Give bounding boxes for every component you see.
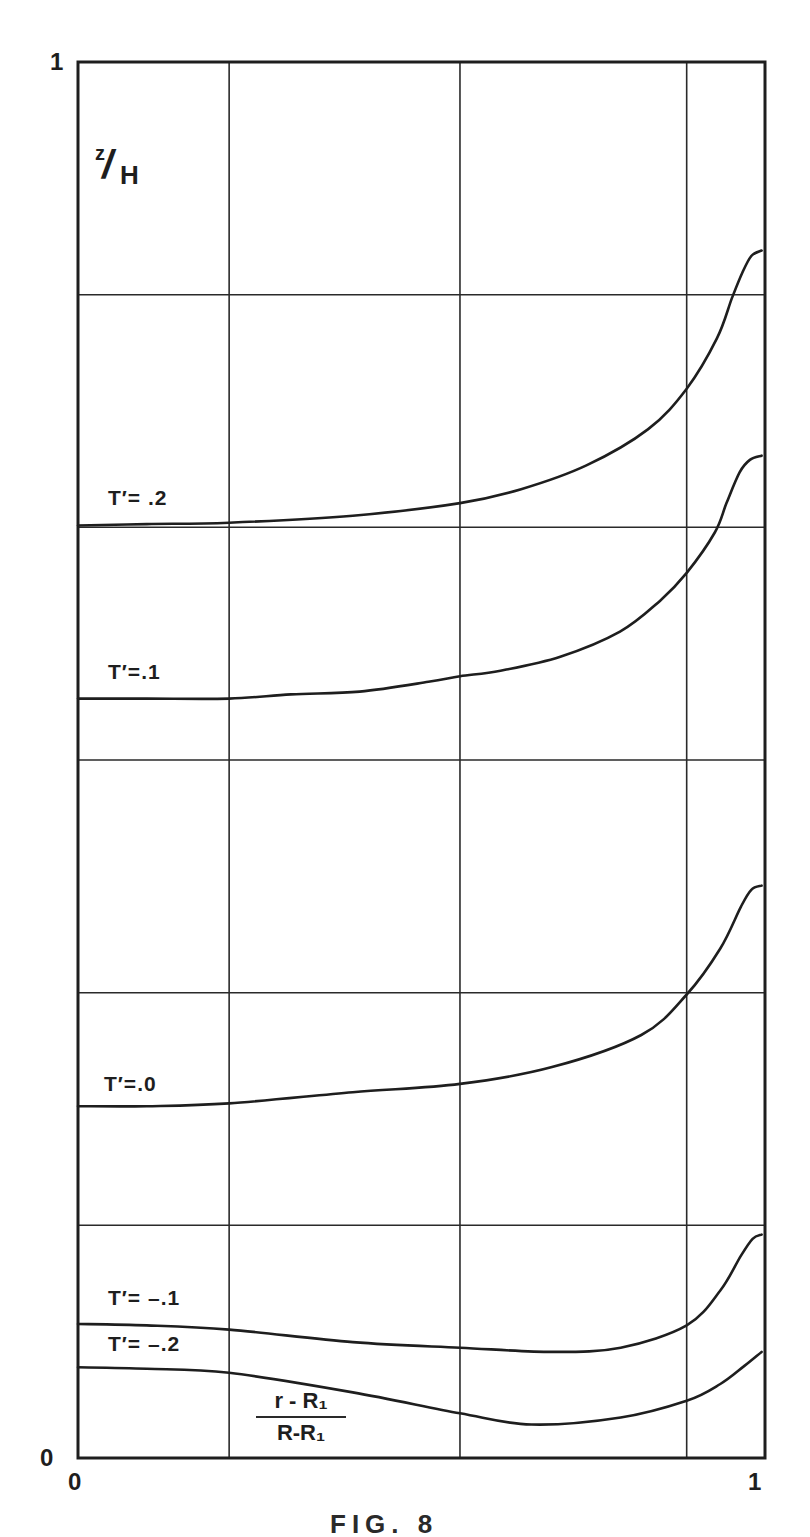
curve-t-.1 [78,1235,762,1352]
data-curves [78,251,762,1425]
curve-t.1 [78,456,762,699]
curve-t.2 [78,251,762,526]
fraction-bar [256,1416,346,1418]
curve-label-t-0.2: T′= .2 [108,486,167,510]
y-tick-bottom: 0 [40,1446,53,1470]
curve-label-t-minus-0.1: T′= –.1 [108,1286,180,1310]
y-axis-label-denominator: H [120,160,139,191]
curve-label-t-minus-0.2: T′= –.2 [108,1332,180,1356]
grid-lines [78,62,765,1458]
curve-t-.2 [78,1352,762,1425]
y-tick-top: 1 [50,50,63,74]
x-axis-label-numerator: r - R₁ [256,1388,346,1414]
x-axis-label: r - R₁ R-R₁ [256,1388,346,1446]
x-tick-left: 0 [68,1470,81,1494]
x-axis-label-denominator: R-R₁ [256,1420,346,1446]
figure-caption: FIG. 8 [330,1509,438,1537]
curve-label-t-0.1: T′=.1 [108,660,161,684]
curve-label-t-0.0: T′=.0 [104,1072,157,1096]
curve-t.0 [78,886,762,1107]
x-tick-right: 1 [748,1470,761,1494]
